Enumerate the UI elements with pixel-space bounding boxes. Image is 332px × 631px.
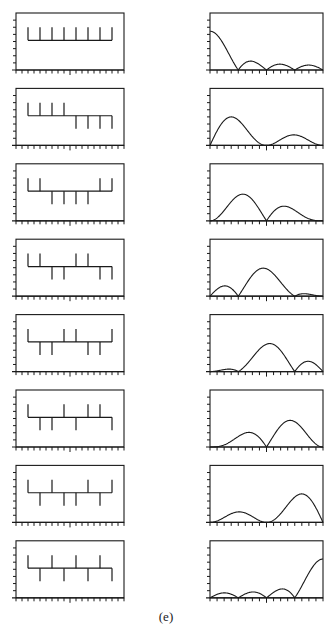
sequence-panel-frame: [16, 465, 124, 522]
figure-caption: (e): [0, 609, 332, 625]
spectrum-curve: [210, 420, 323, 447]
sequence-panel-3: [12, 164, 124, 226]
sequence-panel-frame: [16, 13, 124, 70]
spectrum-panel-frame: [210, 164, 323, 221]
spectrum-panel-frame: [210, 465, 323, 522]
sequence-panel-1: [12, 13, 124, 75]
spectrum-panel-frame: [210, 88, 323, 145]
spectrum-panel-2: [206, 88, 323, 150]
sequence-panel-frame: [16, 88, 124, 145]
sequence-panel-frame: [16, 390, 124, 447]
spectrum-panel-frame: [210, 315, 323, 372]
sequence-panel-2: [12, 88, 124, 150]
spectrum-panel-6: [206, 390, 323, 452]
sequence-panel-7: [12, 465, 124, 527]
sequence-panel-4: [12, 239, 124, 301]
spectrum-curve: [210, 494, 323, 522]
sequence-panel-frame: [16, 164, 124, 221]
sequence-panel-frame: [16, 315, 124, 372]
spectrum-curve: [210, 194, 323, 221]
spectrum-curve: [210, 344, 323, 372]
sequence-panel-frame: [16, 541, 124, 598]
sequence-panel-8: [12, 541, 124, 603]
spectrum-curve: [210, 117, 323, 145]
spectrum-panel-3: [206, 164, 323, 226]
spectrum-panel-frame: [210, 239, 323, 296]
walsh-figure: [0, 0, 332, 631]
sequence-panel-5: [12, 315, 124, 377]
spectrum-panel-5: [206, 315, 323, 377]
spectrum-curve: [210, 559, 323, 598]
spectrum-panel-1: [206, 13, 323, 75]
spectrum-panel-frame: [210, 390, 323, 447]
sequence-panel-frame: [16, 239, 124, 296]
spectrum-curve: [210, 31, 323, 70]
sequence-panel-6: [12, 390, 124, 452]
spectrum-panel-frame: [210, 541, 323, 598]
spectrum-panel-8: [206, 541, 323, 603]
spectrum-panel-4: [206, 239, 323, 301]
spectrum-panel-frame: [210, 13, 323, 70]
spectrum-curve: [210, 268, 323, 296]
spectrum-panel-7: [206, 465, 323, 527]
